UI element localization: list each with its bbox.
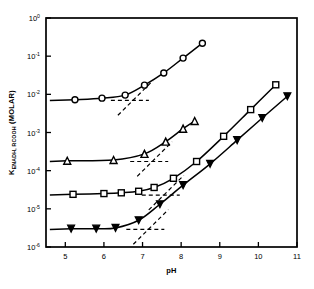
filled-triangle-down-series-point-3 (135, 217, 142, 224)
x-tick-label-7: 7 (140, 252, 144, 261)
x-tick-label-11: 11 (293, 252, 301, 261)
open-square-series-point-6 (194, 159, 200, 165)
open-square-series-point-0 (70, 191, 76, 197)
x-tick-label-10: 10 (254, 252, 262, 261)
plot-frame (46, 18, 297, 247)
open-square-series-point-9 (273, 82, 279, 88)
x-tick-label-8: 8 (179, 252, 183, 261)
y-tick-label--1: 10-1 (27, 51, 40, 61)
x-tick-label-9: 9 (218, 252, 222, 261)
open-square-series-point-7 (221, 133, 227, 139)
y-tick-label-0: 100 (29, 13, 40, 23)
y-tick-label--6: 10-6 (27, 242, 40, 252)
open-triangle-up-series-point-2 (141, 150, 148, 157)
open-circle-series-point-5 (180, 55, 186, 61)
open-circle-series-plateau (50, 100, 75, 101)
y-tick-label--5: 10-5 (27, 204, 40, 214)
y-axis-title: KENADH, RCOOH (MOLAR) (7, 90, 17, 175)
x-axis-title: pH (166, 266, 176, 275)
open-circle-series-line (75, 43, 202, 99)
x-tick-label-5: 5 (63, 252, 67, 261)
open-square-series-point-3 (136, 188, 142, 194)
open-square-series-point-4 (151, 184, 157, 190)
chart-svg: 567891011pH10010-110-210-310-410-510-6KE… (0, 0, 314, 289)
open-circle-series-point-1 (99, 95, 105, 101)
y-tick-label--2: 10-2 (27, 89, 40, 99)
open-triangle-up-series-line (67, 121, 194, 161)
open-square-series-point-1 (101, 191, 107, 197)
filled-triangle-down-series-line (71, 96, 287, 229)
x-tick-label-6: 6 (102, 252, 106, 261)
filled-triangle-down-series-pka-slope-guide (133, 210, 168, 245)
open-circle-series-point-2 (122, 92, 128, 98)
open-square-series-point-8 (248, 107, 254, 113)
open-triangle-up-series-point-5 (191, 118, 198, 125)
open-square-series-point-5 (170, 175, 176, 181)
y-tick-label--3: 10-3 (27, 128, 40, 138)
open-triangle-up-series-point-0 (64, 157, 71, 164)
figure-container: 567891011pH10010-110-210-310-410-510-6KE… (0, 0, 314, 289)
y-tick-label--4: 10-4 (27, 166, 40, 176)
open-triangle-up-series-pka-slope-guide (137, 142, 172, 177)
open-triangle-up-series-point-1 (110, 156, 117, 163)
open-circle-series-point-0 (72, 97, 78, 103)
filled-triangle-down-series-plateau (50, 229, 71, 230)
open-circle-series-point-3 (141, 82, 147, 88)
open-square-series-pka-slope-guide (149, 175, 184, 210)
open-circle-series-point-6 (199, 40, 205, 46)
open-square-series-point-2 (118, 190, 124, 196)
open-circle-series-point-4 (161, 70, 167, 76)
